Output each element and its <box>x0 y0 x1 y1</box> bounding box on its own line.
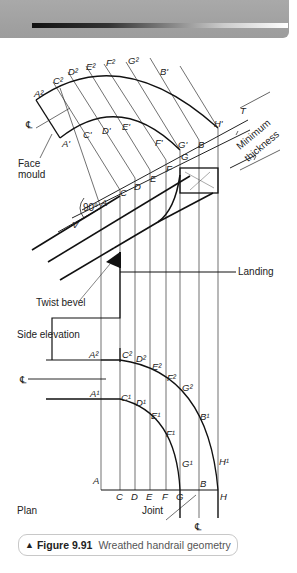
svg-text:D': D' <box>102 125 112 136</box>
svg-text:F²: F² <box>106 57 116 68</box>
plan-label: Plan <box>17 505 37 516</box>
side-elevation-outline <box>46 268 120 362</box>
svg-text:D²: D² <box>68 66 79 77</box>
svg-text:E: E <box>150 173 157 184</box>
svg-text:T: T <box>240 105 247 116</box>
svg-text:E²: E² <box>86 61 96 72</box>
joint-label: Joint <box>142 505 163 516</box>
svg-text:A²: A² <box>33 88 44 99</box>
svg-text:A': A' <box>61 138 71 149</box>
svg-text:C²: C² <box>53 75 64 86</box>
svg-text:B': B' <box>160 66 169 77</box>
svg-text:A¹: A¹ <box>89 388 100 399</box>
svg-text:G¹: G¹ <box>182 458 193 469</box>
svg-text:H¹: H¹ <box>219 456 229 467</box>
twist-bevel-label: Twist bevel <box>36 297 85 308</box>
svg-text:C': C' <box>83 129 93 140</box>
svg-text:C²: C² <box>122 349 133 360</box>
svg-text:A: A <box>100 197 107 208</box>
svg-text:℄: ℄ <box>194 521 202 532</box>
svg-text:B¹: B¹ <box>200 411 210 422</box>
figure-number: Figure 9.91 <box>37 539 92 551</box>
svg-text:H': H' <box>214 118 224 129</box>
svg-text:D: D <box>134 181 141 192</box>
svg-text:E': E' <box>122 121 131 132</box>
angle-marker: 90° V <box>72 198 98 230</box>
svg-text:D²: D² <box>136 353 147 364</box>
svg-text:B: B <box>198 139 205 150</box>
svg-text:℄: ℄ <box>25 119 33 130</box>
plan-vertical-lines <box>101 128 218 518</box>
side-elevation-label: Side elevation <box>17 329 80 340</box>
plan-curves <box>28 360 218 490</box>
svg-text:C: C <box>120 187 127 198</box>
angle-label: 90° <box>83 202 98 213</box>
svg-text:℄: ℄ <box>19 374 27 385</box>
face-mould-centreline <box>36 108 70 158</box>
figure-title: Wreathed handrail geometry <box>98 539 230 551</box>
mould-label: mould <box>18 169 45 180</box>
svg-text:G: G <box>176 491 183 502</box>
svg-text:G: G <box>181 151 188 162</box>
svg-text:H: H <box>220 491 227 502</box>
caption-marker-icon: ▲ <box>25 540 34 550</box>
svg-text:A²: A² <box>88 349 99 360</box>
svg-text:D: D <box>131 491 138 502</box>
svg-text:F: F <box>162 491 169 502</box>
plan-labels: A² C² D² E² F² G² B¹ H¹ A¹ C¹ D¹ E¹ F¹ G… <box>19 349 229 532</box>
svg-text:F': F' <box>155 137 164 148</box>
svg-text:E²: E² <box>152 361 162 372</box>
svg-text:C¹: C¹ <box>121 392 131 403</box>
svg-text:F¹: F¹ <box>166 428 175 439</box>
svg-text:F²: F² <box>167 372 177 383</box>
svg-text:E: E <box>146 491 153 502</box>
handrail-geometry-diagram: 90° V A² C² D² E² F² G² B' H' T A' C' D'… <box>0 0 297 573</box>
figure-caption: ▲ Figure 9.91 Wreathed handrail geometry <box>18 534 238 556</box>
svg-text:G²: G² <box>182 382 193 393</box>
svg-text:D¹: D¹ <box>136 397 146 408</box>
face-label: Face <box>18 158 41 169</box>
twist-bevel-marker <box>80 252 120 300</box>
svg-text:G²: G² <box>128 55 139 66</box>
svg-text:A: A <box>92 475 99 486</box>
svg-text:B: B <box>200 478 207 489</box>
landing-label: Landing <box>238 266 274 277</box>
svg-text:C: C <box>116 491 123 502</box>
svg-text:E¹: E¹ <box>151 410 161 421</box>
svg-text:G': G' <box>178 139 188 150</box>
